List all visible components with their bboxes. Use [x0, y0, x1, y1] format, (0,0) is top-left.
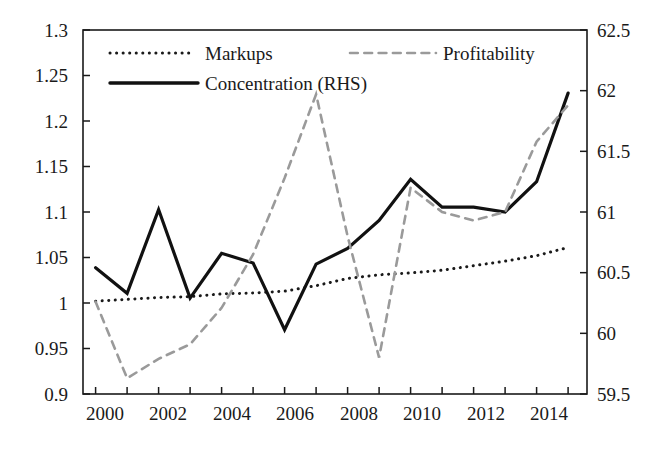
xtick-2002: 2002: [133, 404, 203, 423]
ytick-right-5: 60: [597, 324, 616, 343]
ytick-left-0: 1.3: [10, 21, 68, 40]
ytick-right-1: 62: [597, 81, 616, 100]
data-series-group: [96, 93, 568, 378]
xtick-2010: 2010: [387, 404, 457, 423]
ytick-left-4: 1.1: [10, 203, 68, 222]
series-line-concentration-rhs: [96, 93, 568, 330]
legend-label-profitability: Profitability: [443, 44, 535, 63]
ytick-left-6: 1: [10, 294, 68, 313]
ytick-right-0: 62.5: [597, 21, 630, 40]
chart-canvas: [0, 0, 660, 452]
ytick-left-7: 0.95: [10, 339, 68, 358]
ytick-right-6: 59.5: [597, 385, 630, 404]
ytick-left-2: 1.2: [10, 112, 68, 131]
ytick-left-3: 1.15: [10, 157, 68, 176]
ytick-left-8: 0.9: [10, 385, 68, 404]
ytick-left-5: 1.05: [10, 248, 68, 267]
xtick-2004: 2004: [197, 404, 267, 423]
ytick-right-3: 61: [597, 203, 616, 222]
xtick-2000: 2000: [70, 404, 140, 423]
xtick-2006: 2006: [260, 404, 330, 423]
xtick-2008: 2008: [324, 404, 394, 423]
legend-label-markups: Markups: [205, 44, 273, 63]
ytick-right-2: 61.5: [597, 142, 630, 161]
ytick-left-1: 1.25: [10, 66, 68, 85]
chart-figure: 1.3 1.25 1.2 1.15 1.1 1.05 1 0.95 0.9 62…: [0, 0, 660, 452]
ytick-right-4: 60.5: [597, 263, 630, 282]
xtick-2014: 2014: [514, 404, 584, 423]
xtick-2012: 2012: [451, 404, 521, 423]
legend-label-concentration: Concentration (RHS): [205, 74, 367, 93]
